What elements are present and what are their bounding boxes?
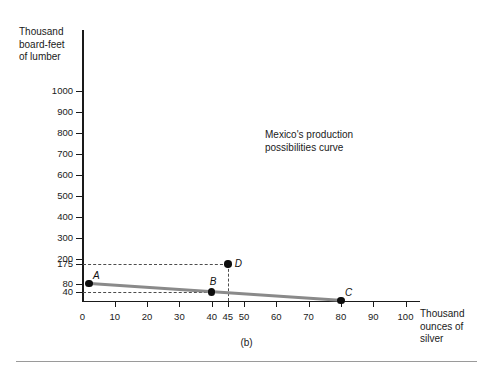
y-tick-label: 800 bbox=[57, 128, 73, 138]
y-axis-title-line-1: Thousand bbox=[19, 26, 65, 39]
ppc-annotation: Mexico's production possibilities curve bbox=[265, 128, 353, 154]
x-tick-mark bbox=[276, 301, 277, 307]
x-tick-label: 90 bbox=[358, 311, 388, 322]
y-tick-mark bbox=[76, 259, 83, 260]
y-tick-mark bbox=[76, 133, 83, 134]
y-tick-label: 900 bbox=[57, 107, 73, 117]
y-tick-label: 500 bbox=[57, 191, 73, 201]
guide-line-horizontal bbox=[83, 264, 228, 265]
ppc-annotation-line-2: possibilities curve bbox=[265, 141, 353, 154]
y-tick-label: 40 bbox=[62, 287, 73, 297]
x-tick-label-wrap: 60 bbox=[261, 311, 291, 322]
x-tick-label: 10 bbox=[100, 311, 130, 322]
y-tick-label-wrap: 600 bbox=[0, 170, 73, 180]
y-tick-label-wrap: 175 bbox=[0, 259, 73, 269]
y-tick-label-wrap: 400 bbox=[0, 212, 73, 222]
x-tick-mark bbox=[115, 301, 116, 307]
guide-line-vertical bbox=[228, 264, 229, 301]
x-tick-label-wrap: 100 bbox=[391, 311, 421, 322]
data-point-c bbox=[337, 297, 345, 305]
y-tick-label: 700 bbox=[57, 149, 73, 159]
x-tick-mark bbox=[309, 301, 310, 307]
x-tick-label: 80 bbox=[326, 311, 356, 322]
ppc-annotation-line-1: Mexico's production bbox=[265, 128, 353, 141]
x-tick-label-wrap: 20 bbox=[132, 311, 162, 322]
guide-line-horizontal bbox=[83, 292, 212, 293]
y-tick-mark bbox=[76, 175, 83, 176]
data-point-label-d: D bbox=[235, 259, 242, 269]
y-tick-mark bbox=[76, 112, 83, 113]
x-tick-label-wrap: 50 bbox=[229, 311, 259, 322]
figure-caption: (b) bbox=[0, 337, 493, 348]
figure-divider-rule bbox=[16, 361, 477, 362]
y-tick-mark bbox=[76, 91, 83, 92]
x-tick-label-wrap: 30 bbox=[164, 311, 194, 322]
y-tick-label: 600 bbox=[57, 170, 73, 180]
x-tick-mark bbox=[179, 301, 180, 307]
x-tick-label-wrap: 90 bbox=[358, 311, 388, 322]
y-axis-line bbox=[82, 30, 84, 302]
x-tick-label: 30 bbox=[164, 311, 194, 322]
x-tick-mark bbox=[147, 301, 148, 307]
y-tick-label-wrap: 900 bbox=[0, 107, 73, 117]
y-axis-title: Thousand board-feet of lumber bbox=[19, 26, 65, 64]
y-tick-label: 400 bbox=[57, 212, 73, 222]
y-tick-label: 1000 bbox=[52, 86, 73, 96]
y-tick-label-wrap: 700 bbox=[0, 149, 73, 159]
y-tick-mark bbox=[76, 196, 83, 197]
y-tick-label-wrap: 800 bbox=[0, 128, 73, 138]
x-tick-label-wrap: 10 bbox=[100, 311, 130, 322]
x-tick-mark bbox=[228, 301, 229, 307]
y-axis-title-line-3: of lumber bbox=[19, 51, 65, 64]
x-tick-label: 50 bbox=[229, 311, 259, 322]
x-axis-title-line-1: Thousand bbox=[420, 308, 464, 321]
data-point-label-b: B bbox=[210, 277, 217, 287]
x-tick-label: 20 bbox=[132, 311, 162, 322]
y-tick-mark bbox=[76, 284, 83, 285]
x-tick-label: 70 bbox=[294, 311, 324, 322]
x-tick-mark bbox=[373, 301, 374, 307]
ppc-figure: Thousand board-feet of lumber Thousand o… bbox=[0, 0, 493, 375]
x-tick-label: 60 bbox=[261, 311, 291, 322]
x-tick-label: 100 bbox=[391, 311, 421, 322]
x-tick-mark bbox=[244, 301, 245, 307]
data-point-label-a: A bbox=[93, 271, 100, 281]
x-tick-label-wrap: 80 bbox=[326, 311, 356, 322]
y-tick-label-wrap: 40 bbox=[0, 287, 73, 297]
data-point-b bbox=[208, 288, 216, 296]
data-point-a bbox=[85, 280, 93, 288]
x-tick-mark bbox=[212, 301, 213, 307]
x-tick-mark bbox=[406, 301, 407, 307]
y-tick-label: 175 bbox=[57, 259, 73, 269]
y-tick-label-wrap: 500 bbox=[0, 191, 73, 201]
data-point-d bbox=[224, 260, 232, 268]
y-axis-title-line-2: board-feet bbox=[19, 39, 65, 52]
y-tick-mark bbox=[76, 217, 83, 218]
x-tick-label-wrap: 0 bbox=[68, 311, 98, 322]
x-tick-label-wrap: 70 bbox=[294, 311, 324, 322]
y-tick-label-wrap: 1000 bbox=[0, 86, 73, 96]
y-tick-mark bbox=[76, 238, 83, 239]
data-point-label-c: C bbox=[345, 288, 352, 298]
x-axis-line bbox=[82, 301, 420, 303]
y-tick-label-wrap: 300 bbox=[0, 233, 73, 243]
x-tick-label: 0 bbox=[68, 311, 98, 322]
x-axis-title-line-2: ounces of bbox=[420, 321, 464, 334]
y-tick-label: 300 bbox=[57, 233, 73, 243]
y-tick-mark bbox=[76, 154, 83, 155]
